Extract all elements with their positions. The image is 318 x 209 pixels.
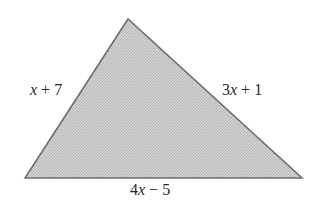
right-side-operator: +: [237, 81, 254, 98]
triangle-figure: [0, 0, 318, 209]
bottom-side-operator: −: [145, 181, 162, 198]
right-side-coefficient: 3: [222, 81, 230, 98]
bottom-side-constant: 5: [162, 181, 170, 198]
triangle-shape: [25, 19, 302, 178]
left-side-operator: +: [37, 81, 54, 98]
bottom-side-label: 4x − 5: [130, 182, 170, 198]
bottom-side-coefficient: 4: [130, 181, 138, 198]
left-side-label: x + 7: [30, 82, 62, 98]
triangle-diagram: x + 7 3x + 1 4x − 5: [0, 0, 318, 209]
right-side-constant: 1: [254, 81, 262, 98]
left-side-constant: 7: [54, 81, 62, 98]
right-side-label: 3x + 1: [222, 82, 262, 98]
